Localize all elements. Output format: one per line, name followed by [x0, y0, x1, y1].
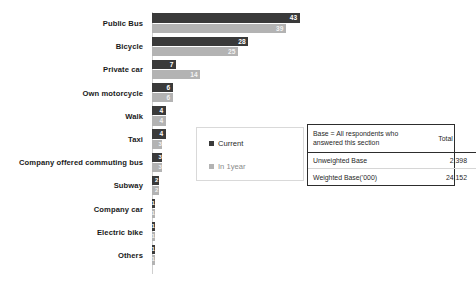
- bar-value-label: 4: [160, 116, 164, 125]
- base-table-row-value-unweighted: 2,398: [415, 152, 476, 169]
- category-label-walk: Walk: [0, 105, 148, 128]
- bar-current: 43: [152, 13, 300, 22]
- legend-swatch-in-1year-icon: [209, 164, 214, 169]
- legend-label-current: Current: [218, 139, 243, 148]
- bar-value-label: 1: [152, 245, 155, 254]
- bar-current: 7: [152, 60, 176, 69]
- chart-category-row: Company car11: [0, 198, 320, 221]
- category-label-company-car: Company car: [0, 198, 148, 221]
- category-label-taxi: Taxi: [0, 128, 148, 151]
- base-table-row-label-weighted: Weighted Base('000): [308, 169, 415, 185]
- chart-legend: Current In 1year: [196, 127, 304, 181]
- bar-current: 1: [152, 245, 155, 254]
- bar-value-label: 1: [152, 199, 155, 208]
- chart-category-row: Own motorcycle66: [0, 82, 320, 105]
- category-label-own-motorcycle: Own motorcycle: [0, 82, 148, 105]
- bar-value-label: 7: [170, 60, 174, 69]
- bar-value-label: 14: [190, 70, 197, 79]
- bar-in-1year: 4: [152, 116, 166, 125]
- table-row: Weighted Base('000) 24,152: [308, 169, 476, 185]
- chart-category-row: Private car714: [0, 58, 320, 81]
- chart-category-row: Bicycle2825: [0, 35, 320, 58]
- bar-value-label: 3: [158, 140, 161, 149]
- bar-group: 11: [152, 221, 320, 244]
- bar-group: 4339: [152, 12, 320, 35]
- chart-category-row: Others11: [0, 244, 320, 267]
- legend-item-current: Current: [209, 139, 243, 148]
- bar-current: 1: [152, 222, 155, 231]
- bar-in-1year: 39: [152, 24, 286, 33]
- bar-group: 11: [152, 198, 320, 221]
- bar-in-1year: 6: [152, 93, 173, 102]
- bar-value-label: 28: [238, 37, 245, 46]
- bar-value-label: 39: [276, 24, 283, 33]
- category-label-subway: Subway: [0, 174, 148, 197]
- bar-in-1year: 2: [152, 186, 159, 195]
- bar-in-1year: 1: [152, 232, 155, 241]
- chart-category-row: Walk44: [0, 105, 320, 128]
- category-label-electric-bike: Electric bike: [0, 221, 148, 244]
- bar-group: 2825: [152, 35, 320, 58]
- legend-label-in-1year: In 1year: [218, 162, 245, 171]
- bar-current: 1: [152, 199, 155, 208]
- bar-value-label: 25: [228, 47, 235, 56]
- bar-group: 44: [152, 105, 320, 128]
- bar-current: 4: [152, 106, 166, 115]
- bar-current: 4: [152, 129, 166, 138]
- base-table: Base = All respondents who answered this…: [307, 124, 455, 186]
- bar-group: 11: [152, 244, 320, 267]
- base-table-description: Base = All respondents who answered this…: [308, 125, 415, 152]
- bar-value-label: 1: [152, 232, 155, 241]
- bar-value-label: 4: [160, 129, 164, 138]
- bar-value-label: 43: [290, 13, 297, 22]
- category-label-public-bus: Public Bus: [0, 12, 148, 35]
- chart-category-row: Public Bus4339: [0, 12, 320, 35]
- bar-value-label: 6: [166, 93, 170, 102]
- table-row: Unweighted Base 2,398: [308, 152, 476, 169]
- bar-value-label: 1: [152, 222, 155, 231]
- bar-value-label: 2: [155, 176, 158, 185]
- category-label-others: Others: [0, 244, 148, 267]
- bar-in-1year: 25: [152, 47, 238, 56]
- bar-in-1year: 3: [152, 140, 162, 149]
- bar-value-label: 1: [152, 209, 155, 218]
- bar-current: 28: [152, 37, 248, 46]
- chart-category-row: Electric bike11: [0, 221, 320, 244]
- base-table-total-header: Total: [415, 125, 476, 152]
- bar-value-label: 3: [158, 153, 161, 162]
- category-label-bicycle: Bicycle: [0, 35, 148, 58]
- base-table-header-row: Base = All respondents who answered this…: [308, 125, 476, 152]
- bar-value-label: 6: [166, 83, 170, 92]
- legend-swatch-current-icon: [209, 141, 214, 146]
- base-table-row-label-unweighted: Unweighted Base: [308, 152, 415, 169]
- bar-value-label: 4: [160, 106, 164, 115]
- bar-current: 6: [152, 83, 173, 92]
- bar-group: 714: [152, 58, 320, 81]
- bar-in-1year: 14: [152, 70, 200, 79]
- category-label-company-offered-commuting-bus: Company offered commuting bus: [0, 151, 148, 174]
- category-label-private-car: Private car: [0, 58, 148, 81]
- bar-in-1year: 1: [152, 209, 155, 218]
- bar-value-label: 3: [158, 163, 161, 172]
- bar-current: 2: [152, 176, 159, 185]
- legend-item-in-1year: In 1year: [209, 162, 245, 171]
- bar-in-1year: 3: [152, 163, 162, 172]
- bar-current: 3: [152, 153, 162, 162]
- bar-value-label: 2: [155, 186, 158, 195]
- bar-value-label: 1: [152, 255, 155, 264]
- bar-group: 66: [152, 82, 320, 105]
- base-table-row-value-weighted: 24,152: [415, 169, 476, 185]
- bar-in-1year: 1: [152, 255, 155, 264]
